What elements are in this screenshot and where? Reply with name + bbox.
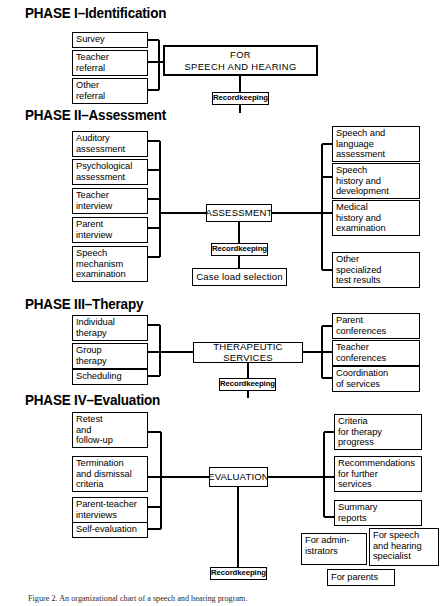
box-identification-main: IDENTIFICATION OF CHILDREN FOR SPEECH AN… <box>163 45 318 76</box>
box-individual-therapy: Individual therapy <box>72 315 148 341</box>
phase-heading-2: PHASE II–Assessment <box>25 107 166 123</box>
box-psychological-assessment: Psychological assessment <box>72 159 148 185</box>
box-parent-teacher-interviews: Parent-teacher interviews <box>72 497 148 523</box>
box-for-parents: For parents <box>327 569 395 586</box>
box-scheduling: Scheduling <box>72 369 148 385</box>
box-teacher-conferences: Teacher conferences <box>332 340 420 366</box>
phase-heading-3: PHASE III–Therapy <box>25 296 143 312</box>
figure-caption: Figure 2. An organizational chart of a s… <box>28 594 247 603</box>
box-recordkeeping-phase2: Recordkeeping <box>211 243 268 256</box>
box-recordkeeping-phase4: Recordkeeping <box>210 567 267 580</box>
box-other-specialized-test-results: Other specialized test results <box>332 252 420 288</box>
box-medical-history-examination: Medical history and examination <box>332 200 420 236</box>
box-group-therapy: Group therapy <box>72 343 148 369</box>
box-speech-language-assessment: Speech and language assessment <box>332 126 420 162</box>
box-recommendations-further-services: Recommendations for further services <box>334 456 422 492</box>
box-evaluation-main: EVALUATION <box>209 467 268 487</box>
box-other-referral: Other referral <box>72 78 148 104</box>
box-retest-and-followup: Retest and follow-up <box>72 412 148 448</box>
box-criteria-for-therapy-progress: Criteria for therapy progress <box>334 414 422 450</box>
box-recordkeeping-phase1: Recordkeeping <box>212 92 269 105</box>
box-teacher-interview: Teacher interview <box>72 188 148 214</box>
box-termination-dismissal-criteria: Termination and dismissal criteria <box>72 456 148 492</box>
box-survey: Survey <box>72 32 148 48</box>
flowchart-diagram: PHASE I–Identification Survey Teacher re… <box>0 0 443 606</box>
box-therapeutic-services-main: THERAPEUTIC SERVICES <box>193 342 303 363</box>
box-parent-conferences: Parent conferences <box>332 313 420 339</box>
box-case-load-selection: Case load selection <box>192 268 287 286</box>
box-auditory-assessment: Auditory assessment <box>72 131 148 157</box>
box-summary-reports: Summary reports <box>334 500 422 526</box>
box-coordination-of-services: Coordination of services <box>332 366 420 392</box>
box-for-administrators: For admin- istrators <box>301 533 367 565</box>
phase-heading-4: PHASE IV–Evaluation <box>25 392 160 408</box>
box-teacher-referral: Teacher referral <box>72 50 148 76</box>
box-for-speech-and-hearing-specialist: For speech and hearing specialist <box>369 528 439 566</box>
phase-heading-1: PHASE I–Identification <box>25 5 166 21</box>
box-self-evaluation: Self-evaluation <box>72 522 148 538</box>
box-recordkeeping-phase3: Recordkeeping <box>219 378 276 391</box>
box-parent-interview: Parent interview <box>72 217 148 243</box>
box-speech-history-development: Speech history and development <box>332 163 420 199</box>
box-speech-mechanism-examination: Speech mechanism examination <box>72 246 148 282</box>
box-assessment-main: ASSESSMENT <box>206 204 272 222</box>
